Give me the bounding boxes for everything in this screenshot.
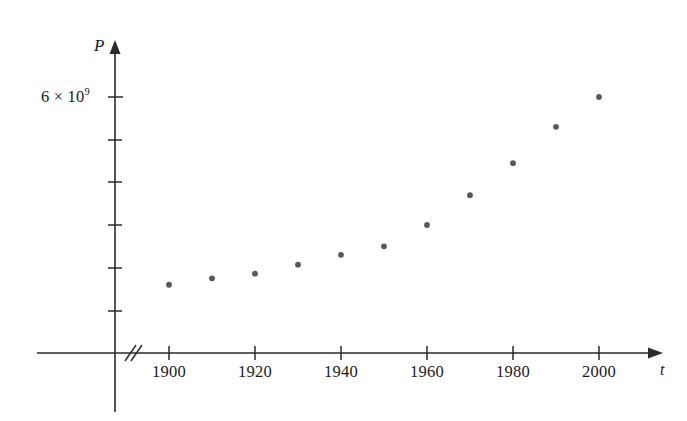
- population-scatter-figure: P t 6 × 109 190019201940196019802000: [0, 0, 687, 421]
- data-point: [166, 282, 172, 288]
- y-axis-arrow-icon: [110, 40, 121, 54]
- data-point: [553, 124, 559, 130]
- x-axis-arrow-icon: [648, 348, 663, 359]
- data-point: [596, 94, 602, 100]
- x-axis-tick-label: 2000: [582, 364, 616, 381]
- x-axis-tick-label: 1920: [238, 364, 272, 381]
- data-point: [209, 275, 215, 281]
- data-point: [252, 271, 258, 277]
- x-axis-tick-label: 1900: [152, 364, 186, 381]
- data-point: [467, 192, 473, 198]
- y-tick-exponent: 9: [85, 86, 90, 97]
- x-axis-tick-label: 1960: [410, 364, 444, 381]
- data-point: [338, 252, 344, 258]
- y-axis-label: P: [94, 37, 104, 54]
- data-point: [381, 243, 387, 249]
- x-axis-label: t: [660, 362, 664, 378]
- x-axis-tick-label: 1940: [324, 364, 358, 381]
- y-axis-tick-label: 6 × 109: [41, 89, 90, 106]
- plot-canvas: [0, 0, 687, 421]
- x-axis-tick-label: 1980: [496, 364, 530, 381]
- y-tick-mantissa: 6 × 10: [41, 87, 85, 106]
- data-points-series: [166, 94, 602, 288]
- data-point: [510, 160, 516, 166]
- data-point: [295, 262, 301, 268]
- data-point: [424, 222, 430, 228]
